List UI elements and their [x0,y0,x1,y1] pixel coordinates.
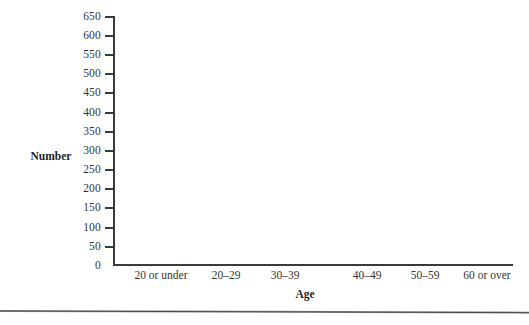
y-tick-label: 50 [0,241,101,253]
y-axis-title: Number [22,150,80,162]
y-tick-mark [105,131,114,133]
x-axis-tick-labels: 20 or under 20–29 30–39 40–49 50–59 60 o… [113,269,513,285]
y-tick-label: 250 [0,164,101,176]
y-tick-label: 400 [0,107,101,119]
plot-area[interactable] [115,16,513,264]
y-tick-mark [105,16,114,18]
x-axis-line [113,264,513,266]
y-tick-mark [105,35,114,37]
x-tick-label-20-or-under: 20 or under [126,269,196,282]
chart-page: 650 600 550 500 450 400 350 300 250 200 … [0,0,529,325]
y-tick-label: 550 [0,49,101,61]
y-tick-label: 200 [0,183,101,195]
y-tick-label: 0 [0,260,101,272]
y-tick-mark [105,112,114,114]
y-tick-label: 100 [0,222,101,234]
y-tick-label: 650 [0,11,101,23]
y-tick-mark [105,207,114,209]
y-tick-mark [105,188,114,190]
y-tick-label: 150 [0,202,101,214]
y-tick-mark [105,246,114,248]
y-tick-label: 500 [0,68,101,80]
y-tick-mark [105,54,114,56]
x-tick-label-20-29: 20–29 [202,269,250,282]
y-tick-mark [105,92,114,94]
y-tick-mark [105,150,114,152]
y-tick-mark [105,169,114,171]
x-tick-label-30-39: 30–39 [261,269,309,282]
y-tick-label: 450 [0,87,101,99]
x-tick-label-60-or-over: 60 or over [452,269,522,282]
y-tick-label: 600 [0,30,101,42]
x-axis-title: Age [275,288,335,300]
y-tick-mark [105,73,114,75]
y-tick-mark [105,227,114,229]
y-tick-label: 350 [0,126,101,138]
blank-histogram-chart: 650 600 550 500 450 400 350 300 250 200 … [0,0,529,311]
x-tick-label-50-59: 50–59 [401,269,449,282]
x-tick-label-40-49: 40–49 [343,269,391,282]
page-bottom-rule [0,310,529,314]
